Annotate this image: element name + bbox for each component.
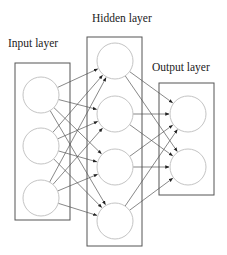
input-layer-label: Input layer: [8, 37, 58, 50]
connection-arrow: [57, 69, 97, 88]
neural-network-diagram: Input layer Hidden layer Output layer: [0, 0, 227, 255]
hidden-node: [97, 149, 133, 185]
connection-arrow: [53, 75, 103, 132]
hidden-layer-label: Hidden layer: [92, 12, 152, 25]
hidden-node: [97, 96, 133, 132]
input-node: [23, 180, 59, 216]
input-node: [23, 77, 59, 113]
connection-arrow: [53, 128, 103, 184]
output-node: [170, 149, 206, 185]
output-nodes: [170, 96, 206, 185]
connection-arrow: [58, 203, 97, 215]
hidden-layer: Hidden layer: [87, 12, 152, 246]
output-layer-label: Output layer: [152, 61, 210, 74]
connection-arrow: [130, 125, 173, 156]
connection-arrow: [130, 72, 173, 103]
hidden-node: [97, 203, 133, 239]
connection-edges: [50, 69, 178, 216]
input-node: [23, 128, 59, 164]
hidden-nodes: [97, 43, 133, 239]
output-node: [170, 96, 206, 132]
connection-arrow: [58, 174, 98, 191]
connection-arrow: [130, 125, 173, 156]
hidden-node: [97, 43, 133, 79]
connection-arrow: [130, 178, 173, 210]
input-nodes: [23, 77, 59, 216]
connection-arrow: [54, 159, 102, 208]
